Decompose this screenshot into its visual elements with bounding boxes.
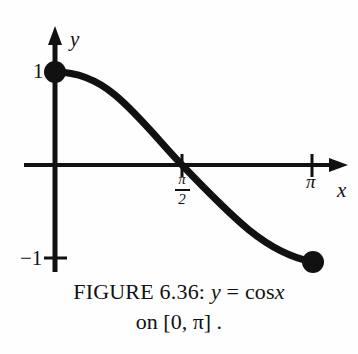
- y-axis-arrowhead: [48, 26, 62, 45]
- caption-math-y: y: [211, 279, 221, 304]
- caption-math-equals: =: [227, 279, 240, 304]
- caption-interval: [0, π] .: [163, 309, 222, 334]
- figure-caption: FIGURE 6.36: y = cosx on [0, π] .: [0, 278, 358, 335]
- endpoint-dot-end: [302, 251, 324, 273]
- x-tick-label-pi-over-two: π 2: [168, 172, 196, 208]
- x-axis-label: x: [337, 180, 346, 201]
- caption-math-cos: cos: [245, 279, 275, 304]
- caption-math-x: x: [275, 279, 285, 304]
- caption-figure-number: FIGURE 6.36:: [73, 279, 205, 304]
- x-tick-label-pi-over-two-numerator: π: [168, 172, 196, 188]
- caption-line-2: on [0, π] .: [0, 308, 358, 336]
- x-tick-label-pi: π: [306, 172, 316, 191]
- caption-on-word: on: [136, 309, 158, 334]
- y-tick-label-one: 1: [33, 61, 44, 82]
- caption-line-1: FIGURE 6.36: y = cosx: [0, 278, 358, 306]
- y-axis-label: y: [70, 29, 79, 50]
- y-tick-label-negative-one: −1: [20, 248, 42, 269]
- x-axis-arrowhead: [329, 158, 348, 172]
- endpoint-dot-start: [44, 61, 66, 83]
- x-tick-label-pi-over-two-denominator: 2: [168, 192, 196, 208]
- figure-container: y x 1 −1 π 2 π FIGURE 6.36: y = cosx on …: [0, 0, 358, 354]
